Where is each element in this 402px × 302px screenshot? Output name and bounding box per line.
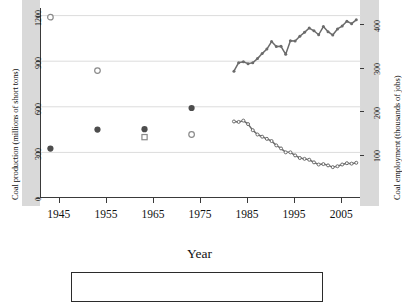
x-tick-label: 1985 bbox=[223, 208, 271, 220]
tick-mark bbox=[294, 198, 295, 203]
tick-mark bbox=[106, 198, 107, 203]
legend-box bbox=[71, 272, 323, 302]
plot-svg bbox=[41, 8, 361, 198]
x-tick-label: 1995 bbox=[270, 208, 318, 220]
x-tick-label: 1975 bbox=[176, 208, 224, 220]
left-tick-label: 300 bbox=[34, 148, 43, 160]
tick-mark bbox=[36, 61, 40, 62]
tick-mark bbox=[360, 155, 364, 156]
x-tick-label: 1955 bbox=[82, 208, 130, 220]
tick-mark bbox=[247, 198, 248, 203]
right-tick-label: 300 bbox=[373, 63, 382, 75]
tick-mark bbox=[200, 198, 201, 203]
tick-mark bbox=[360, 24, 364, 25]
tick-mark bbox=[36, 198, 40, 199]
x-axis-title: Year bbox=[0, 246, 399, 262]
right-axis-title: Coal employment (thousands of jobs) bbox=[392, 76, 402, 200]
x-tick-label: 2005 bbox=[317, 208, 365, 220]
x-tick-label: 1945 bbox=[35, 208, 83, 220]
plot-area bbox=[40, 8, 360, 198]
tick-mark bbox=[36, 152, 40, 153]
right-tick-label: 200 bbox=[373, 107, 382, 119]
tick-mark bbox=[36, 16, 40, 17]
x-tick-label: 1965 bbox=[129, 208, 177, 220]
right-tick-label: 100 bbox=[373, 150, 382, 162]
left-tick-label: 1200 bbox=[34, 10, 43, 26]
tick-mark bbox=[360, 68, 364, 69]
right-tick-label: 400 bbox=[373, 20, 382, 32]
left-tick-label: 900 bbox=[34, 57, 43, 69]
tick-mark bbox=[36, 107, 40, 108]
tick-mark bbox=[153, 198, 154, 203]
left-tick-label: 600 bbox=[34, 103, 43, 115]
left-axis-title: Coal production (millions of short tons) bbox=[10, 69, 20, 200]
tick-mark bbox=[59, 198, 60, 203]
tick-mark bbox=[341, 198, 342, 203]
tick-mark bbox=[360, 111, 364, 112]
